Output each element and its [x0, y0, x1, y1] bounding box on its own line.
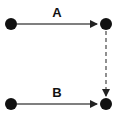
node-top-right [100, 18, 112, 30]
diagram-canvas: A B [0, 0, 121, 119]
edge-a-label: A [52, 5, 62, 20]
node-top-left [5, 18, 17, 30]
node-bottom-left [5, 98, 17, 110]
edge-b-label: B [52, 85, 61, 100]
node-bottom-right [100, 98, 112, 110]
